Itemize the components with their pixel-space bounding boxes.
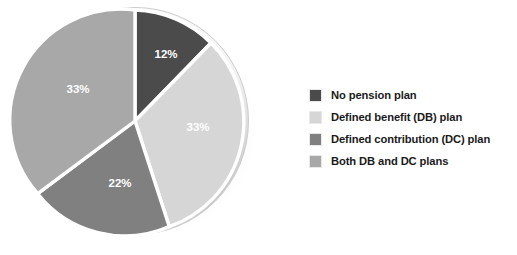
legend-swatch-icon bbox=[309, 89, 322, 102]
pie-slice-label-22: 22% bbox=[108, 177, 131, 189]
legend-swatch-icon bbox=[309, 111, 322, 124]
legend-item-defined-contribution-plan[interactable]: Defined contribution (DC) plan bbox=[309, 128, 517, 150]
legend-item-label: Defined contribution (DC) plan bbox=[331, 133, 490, 145]
pie-slice-label-33-db: 33% bbox=[186, 121, 209, 133]
pie-slice-label-12: 12% bbox=[154, 48, 177, 60]
legend-swatch-icon bbox=[309, 133, 322, 146]
legend-item-defined-benefit-plan[interactable]: Defined benefit (DB) plan bbox=[309, 106, 517, 128]
pie-slice-label-33-both: 33% bbox=[66, 83, 89, 95]
pie-chart-svg: 12% 33% 22% 33% bbox=[0, 0, 280, 255]
legend-item-label: Both DB and DC plans bbox=[331, 155, 448, 167]
legend-item-label: No pension plan bbox=[331, 89, 417, 101]
legend-item-label: Defined benefit (DB) plan bbox=[331, 111, 462, 123]
chart-legend: No pension plan Defined benefit (DB) pla… bbox=[309, 84, 517, 172]
legend-swatch-icon bbox=[309, 155, 322, 168]
pie-chart-figure: 12% 33% 22% 33% No pension plan Defined … bbox=[0, 0, 517, 255]
legend-item-both-db-and-dc-plans[interactable]: Both DB and DC plans bbox=[309, 150, 517, 172]
legend-item-no-pension-plan[interactable]: No pension plan bbox=[309, 84, 517, 106]
pie-chart-plot-area: 12% 33% 22% 33% bbox=[0, 0, 280, 255]
